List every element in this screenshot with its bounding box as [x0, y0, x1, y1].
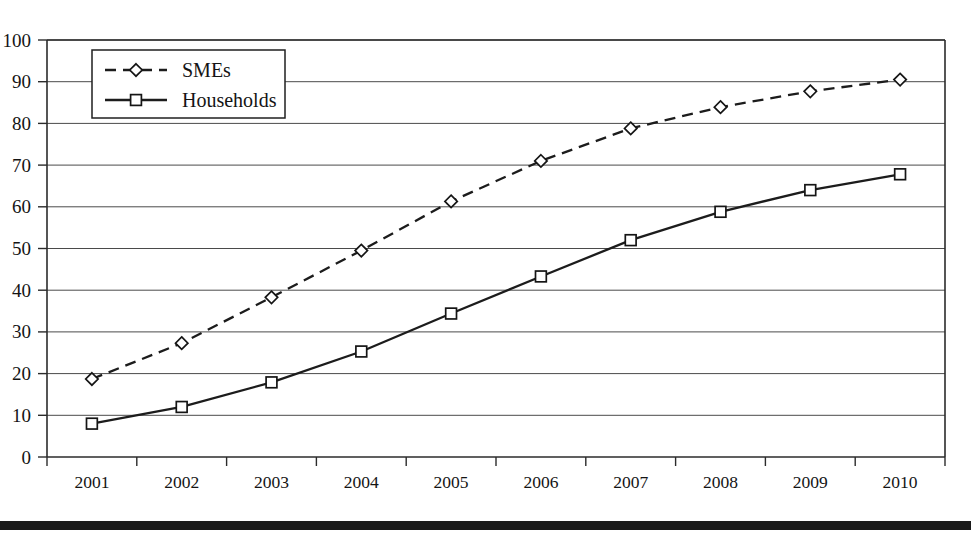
legend-marker-1 [131, 95, 142, 106]
data-point-2009-households [805, 185, 816, 196]
x-tick-label-2010: 2010 [883, 472, 918, 492]
x-tick-label-2004: 2004 [344, 472, 379, 492]
x-tick-label-2008: 2008 [703, 472, 738, 492]
chart-figure: 0102030405060708090100 20012002200320042… [0, 0, 971, 533]
legend-label-smes: SMEs [182, 59, 231, 81]
x-tick-label-2006: 2006 [523, 472, 558, 492]
y-tick-label-0: 0 [22, 447, 32, 468]
data-point-2010-households [895, 169, 906, 180]
bottom-divider-rule [0, 521, 971, 530]
line-chart: 0102030405060708090100 20012002200320042… [0, 0, 971, 533]
data-point-2007-households [625, 235, 636, 246]
data-point-2006-households [536, 271, 547, 282]
y-tick-label-70: 70 [12, 155, 31, 176]
y-tick-label-20: 20 [12, 363, 31, 384]
data-point-2008-households [715, 206, 726, 217]
data-point-2001-households [87, 418, 98, 429]
x-tick-label-2003: 2003 [254, 472, 289, 492]
chart-legend: SMEsHouseholds [92, 50, 285, 118]
legend-label-households: Households [182, 89, 277, 111]
x-tick-label-2005: 2005 [434, 472, 469, 492]
y-tick-label-40: 40 [12, 280, 31, 301]
y-tick-label-30: 30 [12, 321, 31, 342]
x-tick-label-2009: 2009 [793, 472, 828, 492]
data-point-2005-households [446, 308, 457, 319]
y-tick-label-80: 80 [12, 113, 31, 134]
data-point-2004-households [356, 346, 367, 357]
data-point-2002-households [176, 402, 187, 413]
y-tick-label-90: 90 [12, 71, 31, 92]
y-tick-label-50: 50 [12, 238, 31, 259]
data-point-2003-households [266, 377, 277, 388]
y-tick-label-60: 60 [12, 196, 31, 217]
x-tick-label-2007: 2007 [613, 472, 648, 492]
y-tick-label-10: 10 [12, 405, 31, 426]
x-tick-label-2001: 2001 [74, 472, 109, 492]
y-tick-label-100: 100 [3, 30, 32, 51]
x-tick-label-2002: 2002 [164, 472, 199, 492]
